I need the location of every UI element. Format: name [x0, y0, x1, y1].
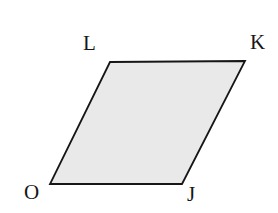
geometry-figure-canvas: L K J O	[0, 0, 278, 213]
vertex-label-K: K	[250, 32, 265, 53]
vertex-label-L: L	[83, 33, 96, 54]
vertex-label-O: O	[24, 182, 39, 203]
parallelogram-shape	[50, 61, 245, 184]
parallelogram-drawing	[0, 0, 278, 213]
vertex-label-J: J	[187, 184, 195, 205]
